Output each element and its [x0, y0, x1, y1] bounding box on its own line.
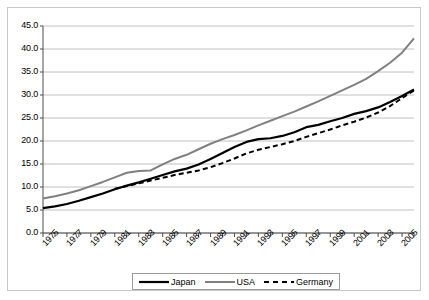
legend-label: Japan — [171, 277, 196, 287]
y-axis-tick-label: 30.0 — [8, 89, 38, 99]
legend-swatch-germany-icon — [264, 277, 294, 287]
legend-label: Germany — [296, 277, 333, 287]
line-chart-plot — [8, 8, 422, 292]
y-axis-tick-label: 10.0 — [8, 181, 38, 191]
legend-item-germany: Germany — [264, 277, 333, 287]
legend-swatch-japan-icon — [139, 277, 169, 287]
y-axis-tick-label: 45.0 — [8, 20, 38, 30]
chart-legend: JapanUSAGermany — [132, 273, 340, 290]
y-axis-tick-label: 15.0 — [8, 158, 38, 168]
legend-item-japan: Japan — [139, 277, 196, 287]
y-axis-tick-label: 20.0 — [8, 135, 38, 145]
series-line-japan — [43, 89, 414, 208]
series-line-usa — [43, 38, 414, 198]
y-axis-tick-label: 5.0 — [8, 204, 38, 214]
y-axis-tick-label: 0.0 — [8, 227, 38, 237]
y-axis-tick-label: 35.0 — [8, 66, 38, 76]
legend-label: USA — [237, 277, 256, 287]
chart-frame: 0.05.010.015.020.025.030.035.040.045.0 1… — [7, 7, 421, 291]
y-axis-tick-label: 40.0 — [8, 43, 38, 53]
y-axis-tick-label: 25.0 — [8, 112, 38, 122]
legend-swatch-usa-icon — [205, 277, 235, 287]
legend-item-usa: USA — [205, 277, 256, 287]
